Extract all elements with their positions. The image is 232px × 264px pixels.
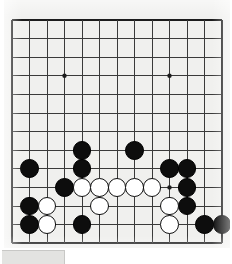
white-stone[interactable]	[125, 178, 144, 197]
white-stone[interactable]	[90, 178, 109, 197]
black-stone[interactable]	[20, 197, 39, 216]
black-stone[interactable]	[20, 159, 39, 178]
black-stone[interactable]	[160, 159, 179, 178]
star-point	[167, 74, 171, 78]
black-stone[interactable]	[125, 141, 144, 160]
white-stone[interactable]	[143, 178, 162, 197]
bottom-ui-strip	[0, 248, 232, 264]
white-stone[interactable]	[73, 178, 92, 197]
star-point	[62, 74, 66, 78]
bottom-ui-chip[interactable]	[2, 250, 65, 264]
black-stone[interactable]	[73, 141, 92, 160]
white-stone[interactable]	[160, 215, 179, 234]
black-stone[interactable]	[178, 178, 197, 197]
white-stone[interactable]	[160, 197, 179, 216]
black-stone[interactable]	[20, 215, 39, 234]
black-stone[interactable]	[73, 215, 92, 234]
star-point	[167, 185, 171, 189]
go-board-screen	[0, 0, 232, 264]
white-stone[interactable]	[108, 178, 127, 197]
go-board[interactable]	[4, 0, 230, 248]
right-page-margin	[230, 0, 232, 248]
black-stone[interactable]	[213, 215, 232, 234]
black-stone[interactable]	[55, 178, 74, 197]
white-stone[interactable]	[90, 197, 109, 216]
board-grid	[4, 0, 230, 248]
black-stone[interactable]	[195, 215, 214, 234]
white-stone[interactable]	[38, 215, 57, 234]
